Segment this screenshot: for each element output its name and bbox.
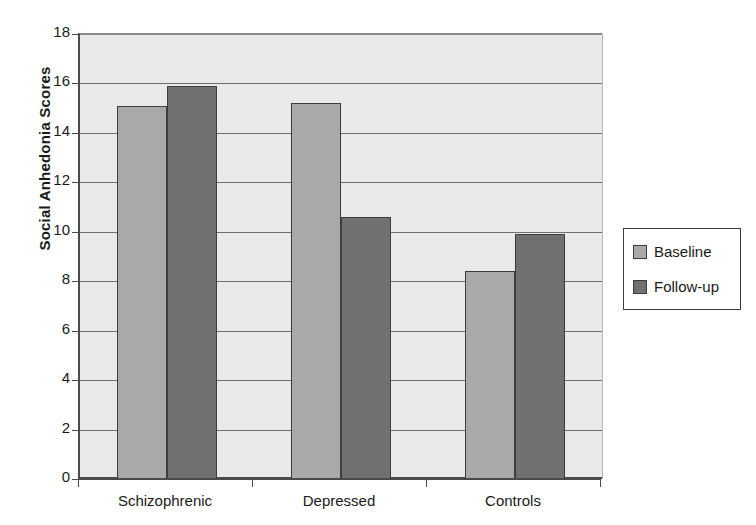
legend-swatch-follow-up [633, 280, 647, 294]
y-tick-label-4: 4 [2, 369, 70, 386]
y-tick-label-16: 16 [2, 72, 70, 89]
x-tick-0 [78, 478, 79, 487]
gridline-16 [80, 83, 602, 84]
legend-item-baseline[interactable]: Baseline [633, 243, 712, 260]
y-tick-10 [72, 232, 80, 233]
x-tick-2 [426, 478, 427, 487]
x-category-label-depressed: Depressed [252, 492, 426, 509]
legend-label-follow-up: Follow-up [654, 278, 719, 295]
bar-schizophrenic-baseline [117, 106, 167, 479]
y-tick-label-10: 10 [2, 221, 70, 238]
y-axis-tick-labels: 024681012141618 [0, 0, 70, 525]
legend: Baseline Follow-up [623, 228, 741, 310]
x-axis-line [78, 478, 601, 480]
y-tick-18 [72, 34, 80, 35]
bar-schizophrenic-follow-up [167, 86, 217, 479]
x-category-label-controls: Controls [426, 492, 600, 509]
y-tick-12 [72, 182, 80, 183]
y-tick-label-6: 6 [2, 320, 70, 337]
gridline-18 [80, 34, 602, 35]
bar-controls-follow-up [515, 234, 565, 479]
y-tick-label-12: 12 [2, 171, 70, 188]
y-tick-label-18: 18 [2, 23, 70, 40]
y-tick-6 [72, 331, 80, 332]
y-tick-2 [72, 430, 80, 431]
bar-depressed-follow-up [341, 217, 391, 479]
plot-area [78, 33, 602, 479]
y-tick-8 [72, 281, 80, 282]
x-tick-1 [252, 478, 253, 487]
bar-depressed-baseline [291, 103, 341, 479]
x-category-label-schizophrenic: Schizophrenic [78, 492, 252, 509]
x-tick-3 [600, 478, 601, 487]
y-tick-4 [72, 380, 80, 381]
bar-chart-figure: Social Anhedonia Scores 024681012141618 … [0, 0, 756, 525]
y-tick-label-0: 0 [2, 468, 70, 485]
y-tick-label-14: 14 [2, 122, 70, 139]
y-tick-label-8: 8 [2, 270, 70, 287]
legend-swatch-baseline [633, 245, 647, 259]
y-tick-14 [72, 133, 80, 134]
legend-item-follow-up[interactable]: Follow-up [633, 278, 719, 295]
bar-controls-baseline [465, 271, 515, 479]
y-tick-label-2: 2 [2, 419, 70, 436]
y-tick-16 [72, 83, 80, 84]
legend-label-baseline: Baseline [654, 243, 712, 260]
